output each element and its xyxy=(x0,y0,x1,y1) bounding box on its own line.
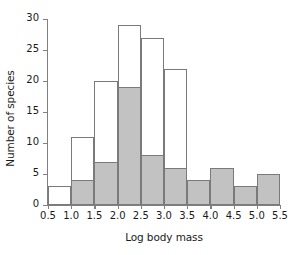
y-tick: 20 xyxy=(43,81,48,82)
y-tick: 25 xyxy=(43,50,48,51)
x-tick xyxy=(71,205,72,209)
x-tick-label: 5.5 xyxy=(265,210,288,222)
x-tick xyxy=(164,205,165,209)
bar-total xyxy=(48,186,71,205)
y-axis-title: Number of species xyxy=(0,0,22,255)
y-tick-label: 0 xyxy=(33,198,39,210)
x-tick xyxy=(187,205,188,209)
bar-shaded xyxy=(164,168,187,205)
y-tick-label: 10 xyxy=(26,136,39,148)
x-tick xyxy=(141,205,142,209)
y-tick-label: 20 xyxy=(26,74,39,86)
bar-shaded xyxy=(94,162,117,205)
x-tick xyxy=(257,205,258,209)
plot-area: 051015202530 0.51.01.52.02.53.03.54.04.5… xyxy=(48,19,280,205)
x-tick xyxy=(210,205,211,209)
y-tick-label: 15 xyxy=(26,105,39,117)
bar-shaded xyxy=(257,174,280,205)
y-tick: 5 xyxy=(43,174,48,175)
bar-shaded xyxy=(141,155,164,205)
y-tick: 10 xyxy=(43,143,48,144)
y-tick: 30 xyxy=(43,19,48,20)
bar-shaded xyxy=(210,168,233,205)
y-tick: 15 xyxy=(43,112,48,113)
bar-shaded xyxy=(118,87,141,205)
x-tick xyxy=(94,205,95,209)
bar-shaded xyxy=(234,186,257,205)
histogram-figure: Number of species 051015202530 0.51.01.5… xyxy=(0,0,288,255)
x-tick xyxy=(280,205,281,209)
y-tick-label: 5 xyxy=(33,167,39,179)
x-axis-title: Log body mass xyxy=(48,231,280,243)
x-tick xyxy=(118,205,119,209)
x-tick xyxy=(234,205,235,209)
y-tick-label: 25 xyxy=(26,43,39,55)
bar-shaded xyxy=(71,180,94,205)
y-tick-label: 30 xyxy=(26,12,39,24)
bar-shaded xyxy=(187,180,210,205)
y-axis-title-text: Number of species xyxy=(4,70,18,185)
x-tick xyxy=(48,205,49,209)
